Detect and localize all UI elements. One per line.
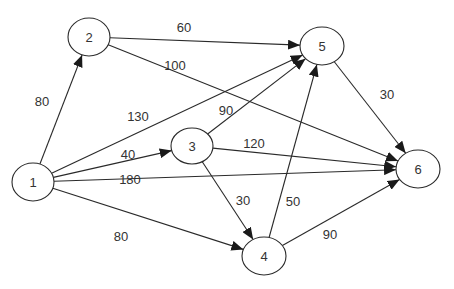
edge-weight-label: 120 [243, 136, 265, 151]
edge-3-to-6 [213, 148, 396, 167]
edge-1-to-6 [54, 170, 396, 182]
edge-weight-label: 50 [286, 194, 300, 209]
edge-weight-label: 60 [177, 20, 191, 35]
node-label: 1 [29, 175, 36, 190]
node-label: 3 [188, 139, 195, 154]
node-2: 2 [68, 18, 110, 56]
edge-weight-label: 80 [35, 94, 49, 109]
edge-weight-label: 80 [114, 229, 128, 244]
edge-weight-label: 90 [323, 227, 337, 242]
edge-weight-label: 100 [164, 58, 186, 73]
edge-4-to-5 [269, 64, 317, 237]
node-label: 5 [318, 39, 325, 54]
node-3: 3 [171, 128, 213, 164]
node-label: 2 [85, 30, 92, 45]
edge-3-to-5 [208, 59, 306, 134]
nodes-layer: 123456 [12, 18, 440, 275]
node-5: 5 [300, 27, 344, 65]
edge-weight-label: 30 [236, 193, 250, 208]
edge-4-to-6 [282, 179, 399, 245]
edge-weight-label: 130 [127, 109, 149, 124]
graph-svg: 123456 801304018080601009012030509030 [0, 0, 454, 289]
edge-weight-label: 30 [380, 87, 394, 102]
node-1: 1 [12, 163, 54, 201]
node-6: 6 [396, 150, 440, 188]
edge-weight-label: 90 [219, 103, 233, 118]
edge-weight-label: 180 [119, 172, 141, 187]
edge-2-to-5 [110, 38, 300, 45]
graph-diagram: 123456 801304018080601009012030509030 [0, 0, 454, 289]
edge-weight-label: 40 [121, 147, 135, 162]
edge-1-to-4 [53, 188, 244, 249]
node-label: 6 [414, 162, 421, 177]
node-4: 4 [242, 237, 286, 275]
edges-layer [40, 38, 406, 250]
node-label: 4 [260, 249, 267, 264]
edge-1-to-2 [40, 55, 82, 164]
